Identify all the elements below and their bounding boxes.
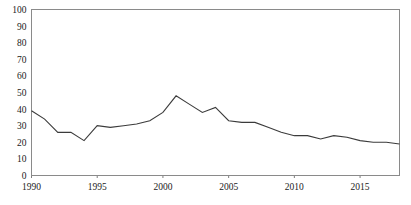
y-tick-label: 60	[17, 71, 27, 81]
x-tick-label: 1995	[88, 182, 107, 192]
chart-canvas: 0102030405060708090100 19901995200020052…	[0, 0, 411, 205]
y-tick-label: 0	[22, 171, 27, 181]
x-tick-label: 1990	[22, 182, 41, 192]
y-tick-label: 40	[17, 105, 27, 115]
x-tick-label: 2010	[285, 182, 304, 192]
y-tick-label: 80	[17, 38, 27, 48]
line-chart: 0102030405060708090100 19901995200020052…	[0, 0, 411, 205]
y-tick-label: 100	[12, 5, 27, 15]
chart-background	[0, 0, 411, 205]
y-tick-label: 10	[17, 154, 27, 164]
y-tick-label: 50	[17, 88, 27, 98]
x-tick-label: 2015	[351, 182, 370, 192]
y-tick-label: 90	[17, 22, 27, 32]
x-tick-label: 2000	[153, 182, 172, 192]
y-tick-label: 70	[17, 55, 27, 65]
x-tick-label: 2005	[219, 182, 238, 192]
y-tick-label: 30	[17, 121, 27, 131]
y-tick-label: 20	[17, 138, 27, 148]
